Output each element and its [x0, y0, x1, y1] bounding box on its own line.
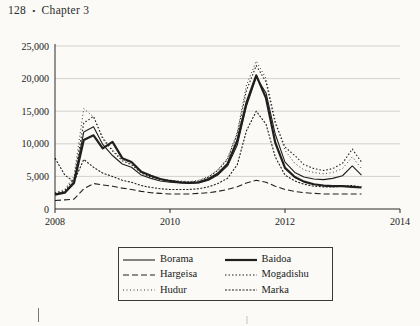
legend-item: Mogadishu: [225, 266, 327, 281]
chapter-title: Chapter 3: [42, 4, 90, 16]
chart-series-group: [55, 61, 361, 201]
legend-item: Marka: [225, 282, 327, 297]
page-header: 128•Chapter 3: [8, 4, 89, 16]
chart-gridlines: [55, 46, 400, 176]
svg-text:25,000: 25,000: [22, 41, 50, 52]
series-line: [55, 61, 361, 193]
legend-label: Borama: [160, 253, 193, 264]
legend-item: Hargeisa: [123, 266, 225, 281]
svg-text:15,000: 15,000: [22, 106, 50, 117]
svg-text:5,000: 5,000: [27, 171, 50, 182]
svg-text:20,000: 20,000: [22, 73, 50, 84]
svg-text:10,000: 10,000: [22, 138, 50, 149]
line-chart: 05,00010,00015,00020,00025,000 200820102…: [0, 34, 420, 249]
page-stray-mark: |: [246, 314, 248, 324]
svg-text:2012: 2012: [275, 216, 295, 227]
series-line: [55, 66, 361, 194]
legend-item: Hudur: [123, 282, 225, 297]
legend-swatch-icon: [225, 285, 257, 293]
legend-item: Baidoa: [225, 251, 327, 266]
legend-label: Marka: [262, 284, 289, 295]
legend-item: Borama: [123, 251, 225, 266]
legend-swatch-icon: [123, 285, 155, 293]
header-separator-icon: •: [32, 6, 35, 16]
page-canvas: 128•Chapter 3 05,00010,00015,00020,00025…: [0, 0, 420, 326]
chart-x-tick-labels: 2008201020122014: [45, 216, 410, 227]
page-number: 128: [8, 4, 26, 16]
page-edge-mark: [38, 308, 39, 322]
legend-swatch-icon: [123, 270, 155, 278]
svg-text:2008: 2008: [45, 216, 65, 227]
legend-swatch-icon: [225, 270, 257, 278]
legend-label: Hargeisa: [160, 268, 197, 279]
legend-label: Hudur: [160, 284, 187, 295]
svg-text:2014: 2014: [390, 216, 410, 227]
svg-text:2010: 2010: [160, 216, 180, 227]
legend-grid: BoramaBaidoaHargeisaMogadishuHudurMarka: [119, 248, 332, 300]
series-line: [55, 180, 361, 200]
svg-text:0: 0: [44, 204, 49, 215]
chart-legend: BoramaBaidoaHargeisaMogadishuHudurMarka: [118, 247, 333, 301]
legend-swatch-icon: [225, 255, 257, 263]
legend-swatch-icon: [123, 255, 155, 263]
chart-y-tick-labels: 05,00010,00015,00020,00025,000: [22, 41, 50, 215]
chart-svg: 05,00010,00015,00020,00025,000 200820102…: [0, 34, 420, 249]
legend-label: Mogadishu: [262, 268, 309, 279]
legend-label: Baidoa: [262, 253, 292, 264]
